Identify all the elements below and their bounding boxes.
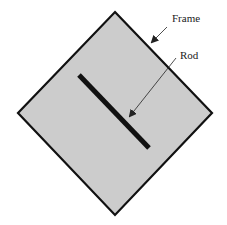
frame-arrow — [152, 27, 167, 42]
frame-label: Frame — [172, 13, 200, 24]
diagram-canvas — [0, 0, 227, 225]
rod-label: Rod — [180, 50, 198, 61]
